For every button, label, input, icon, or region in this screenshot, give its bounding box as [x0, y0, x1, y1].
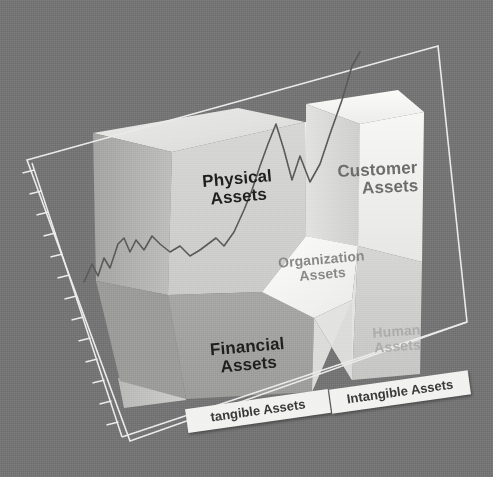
diagram-canvas: Physical Assets Customer Assets Organiza… [0, 0, 493, 477]
label-customer-assets: Customer Assets [299, 159, 419, 202]
